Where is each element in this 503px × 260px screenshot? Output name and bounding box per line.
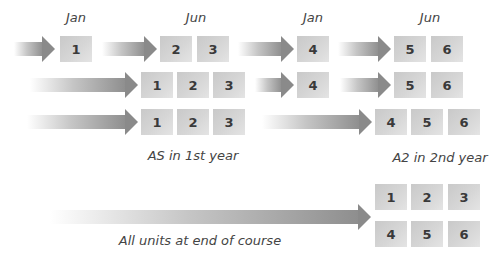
- month-label-jun-2: Jun: [420, 10, 440, 25]
- unit-box: 2: [177, 72, 209, 98]
- arrow-icon: [238, 36, 294, 62]
- month-label-jun-1: Jun: [186, 10, 206, 25]
- arrow-icon: [102, 36, 157, 62]
- unit-box: 3: [448, 184, 480, 210]
- arrow-icon: [50, 204, 371, 230]
- arrow-icon: [27, 109, 138, 135]
- caption-a2-second-year: A2 in 2nd year: [392, 150, 487, 165]
- unit-box: 4: [297, 72, 329, 98]
- unit-box: 2: [160, 36, 192, 62]
- unit-box: 6: [448, 221, 480, 247]
- unit-box: 1: [60, 36, 92, 62]
- unit-box: 2: [177, 109, 209, 135]
- month-label-jan-2: Jan: [303, 10, 323, 25]
- unit-box: 6: [448, 109, 480, 135]
- unit-box: 4: [375, 109, 407, 135]
- arrow-icon: [14, 36, 55, 62]
- unit-box: 3: [213, 109, 245, 135]
- arrow-icon: [340, 72, 391, 98]
- unit-box: 3: [213, 72, 245, 98]
- arrow-icon: [262, 109, 372, 135]
- unit-box: 5: [394, 36, 426, 62]
- arrow-icon: [30, 72, 138, 98]
- unit-box: 3: [197, 36, 229, 62]
- unit-box: 1: [141, 109, 173, 135]
- arrow-icon: [338, 36, 391, 62]
- unit-box: 1: [375, 184, 407, 210]
- unit-box: 1: [141, 72, 173, 98]
- caption-as-first-year: AS in 1st year: [148, 148, 239, 163]
- unit-box: 5: [411, 221, 443, 247]
- unit-box: 5: [411, 109, 443, 135]
- unit-box: 2: [411, 184, 443, 210]
- unit-box: 6: [431, 36, 463, 62]
- unit-box: 5: [394, 72, 426, 98]
- caption-all-units-end: All units at end of course: [119, 233, 281, 248]
- month-label-jan-1: Jan: [66, 10, 86, 25]
- unit-box: 4: [375, 221, 407, 247]
- unit-box: 4: [297, 36, 329, 62]
- arrow-icon: [255, 72, 294, 98]
- unit-box: 6: [431, 72, 463, 98]
